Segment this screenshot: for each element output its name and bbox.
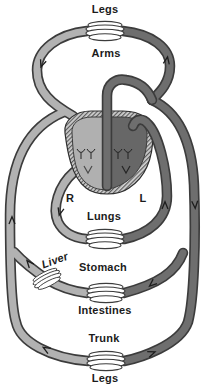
label-legs-bottom: Legs bbox=[92, 373, 118, 384]
label-intestines: Intestines bbox=[78, 305, 131, 316]
capillary-bed-trunk-legs bbox=[87, 351, 125, 370]
capillary-bed-arms-legs bbox=[86, 21, 124, 40]
circulatory-diagram: Legs Arms R L Lungs Liver Stomach Intest… bbox=[0, 0, 207, 392]
label-legs-top: Legs bbox=[92, 4, 118, 15]
label-stomach: Stomach bbox=[79, 262, 127, 273]
label-arms: Arms bbox=[92, 48, 121, 59]
label-heart-left: L bbox=[140, 193, 147, 204]
vein-vessels bbox=[10, 31, 88, 361]
capillary-bed-stomach-intestines bbox=[87, 283, 125, 302]
heart-left-chamber bbox=[107, 117, 147, 189]
label-trunk: Trunk bbox=[89, 333, 120, 344]
label-heart-right: R bbox=[66, 193, 74, 204]
capillary-bed-lungs bbox=[86, 229, 124, 248]
label-lungs: Lungs bbox=[87, 211, 121, 222]
